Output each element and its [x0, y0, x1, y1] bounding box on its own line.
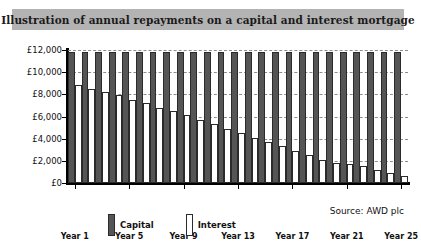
- x-axis-tick: [75, 185, 76, 189]
- y-axis-tick-label: £0: [8, 178, 62, 188]
- bar-capital: [231, 52, 238, 183]
- bar-interest: [224, 129, 231, 183]
- x-axis-tick: [184, 185, 185, 189]
- bar-capital: [82, 52, 89, 183]
- bar-interest: [170, 111, 177, 183]
- bar-group: [313, 50, 327, 183]
- bar-group: [231, 50, 245, 183]
- bar-group: [245, 50, 259, 183]
- x-axis-tick: [401, 185, 402, 189]
- bar-capital: [109, 52, 116, 183]
- x-axis-tick-label: Year 17: [276, 232, 310, 241]
- bars-layer: [68, 50, 408, 183]
- y-axis-tick-label: £8,000: [8, 89, 62, 99]
- bar-group: [218, 50, 232, 183]
- bar-capital: [286, 52, 293, 183]
- bar-capital: [326, 52, 333, 183]
- y-axis-tick-label: £2,000: [8, 156, 62, 166]
- bar-capital: [381, 52, 388, 183]
- dark-filled-swatch: [108, 214, 115, 236]
- y-axis-tick: [62, 72, 67, 73]
- bar-group: [367, 50, 381, 183]
- x-axis-tick: [347, 185, 348, 189]
- bar-interest: [265, 142, 272, 183]
- y-axis-tick: [62, 50, 67, 51]
- bar-group: [109, 50, 123, 183]
- bar-interest: [279, 146, 286, 183]
- y-axis-tick: [62, 161, 67, 162]
- y-axis-tick: [62, 139, 67, 140]
- x-axis-tick: [292, 185, 293, 189]
- bar-capital: [204, 52, 211, 183]
- bar-capital: [394, 52, 401, 183]
- y-axis-tick-label: £12,000: [8, 45, 62, 55]
- bar-group: [122, 50, 136, 183]
- bar-interest: [129, 100, 136, 183]
- bar-interest: [143, 103, 150, 183]
- bar-capital: [122, 52, 129, 183]
- y-axis-tick-label: £10,000: [8, 67, 62, 77]
- y-axis-tick: [62, 94, 67, 95]
- bar-capital: [313, 52, 320, 183]
- bar-interest: [88, 89, 95, 183]
- y-axis-tick-label: £6,000: [8, 112, 62, 122]
- bar-interest: [238, 133, 245, 183]
- bar-interest: [347, 164, 354, 183]
- bar-interest: [387, 173, 394, 183]
- bar-group: [394, 50, 408, 183]
- bar-capital: [353, 52, 360, 183]
- bar-group: [299, 50, 313, 183]
- source-note: Source: AWD plc: [330, 206, 404, 216]
- bar-interest: [333, 163, 340, 183]
- bar-interest: [360, 166, 367, 183]
- y-axis-tick: [62, 117, 67, 118]
- chart-title-banner: Illustration of annual repayments on a c…: [12, 9, 404, 30]
- bar-interest: [197, 120, 204, 183]
- bar-group: [326, 50, 340, 183]
- bar-group: [136, 50, 150, 183]
- chart-legend: CapitalInterest: [108, 212, 236, 238]
- y-axis-labels: £0£2,000£4,000£6,000£8,000£10,000£12,000: [8, 36, 62, 196]
- bar-group: [204, 50, 218, 183]
- bar-interest: [116, 95, 123, 183]
- bar-group: [258, 50, 272, 183]
- bar-interest: [319, 160, 326, 183]
- bar-group: [163, 50, 177, 183]
- bar-group: [190, 50, 204, 183]
- bar-capital: [150, 52, 157, 183]
- chart-container: £0£2,000£4,000£6,000£8,000£10,000£12,000…: [0, 36, 421, 196]
- bar-group: [82, 50, 96, 183]
- bar-interest: [374, 170, 381, 183]
- y-axis-tick-label: £4,000: [8, 134, 62, 144]
- bar-capital: [272, 52, 279, 183]
- bar-interest: [252, 138, 259, 183]
- bar-group: [353, 50, 367, 183]
- bar-capital: [190, 52, 197, 183]
- legend-label: Interest: [198, 220, 236, 230]
- bar-interest: [184, 115, 191, 183]
- bar-capital: [245, 52, 252, 183]
- x-axis-tick: [238, 185, 239, 189]
- bar-capital: [299, 52, 306, 183]
- bar-group: [286, 50, 300, 183]
- x-axis-tick: [129, 185, 130, 189]
- legend-item: Capital: [108, 214, 154, 236]
- page-title: Illustration of annual repayments on a c…: [1, 14, 415, 26]
- bar-group: [68, 50, 82, 183]
- bar-interest: [211, 124, 218, 183]
- bar-interest: [292, 151, 299, 183]
- bar-capital: [136, 52, 143, 183]
- bar-capital: [68, 52, 75, 183]
- bar-capital: [163, 52, 170, 183]
- bar-group: [177, 50, 191, 183]
- bar-group: [381, 50, 395, 183]
- bar-capital: [218, 52, 225, 183]
- bar-capital: [340, 52, 347, 183]
- bar-group: [272, 50, 286, 183]
- legend-item: Interest: [186, 214, 236, 236]
- legend-label: Capital: [120, 220, 154, 230]
- y-axis-tick: [62, 183, 67, 184]
- bar-interest: [401, 176, 408, 183]
- bar-capital: [258, 52, 265, 183]
- bar-capital: [95, 52, 102, 183]
